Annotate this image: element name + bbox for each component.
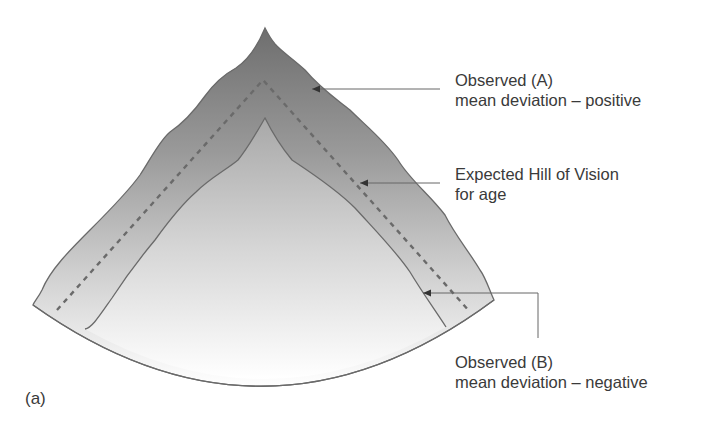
annotation-observed-a-line1: Observed (A) — [455, 70, 641, 90]
annotation-expected-line1: Expected Hill of Vision — [455, 164, 619, 184]
annotation-expected-line2: for age — [455, 184, 619, 204]
annotation-expected-hill: Expected Hill of Vision for age — [455, 164, 619, 204]
leader-observed-a — [312, 86, 440, 93]
panel-label: (a) — [25, 389, 46, 409]
annotation-observed-b: Observed (B) mean deviation – negative — [455, 352, 648, 392]
annotation-observed-a: Observed (A) mean deviation – positive — [455, 70, 641, 110]
annotation-observed-b-line1: Observed (B) — [455, 352, 648, 372]
annotation-observed-b-line2: mean deviation – negative — [455, 372, 648, 392]
annotation-observed-a-line2: mean deviation – positive — [455, 90, 641, 110]
